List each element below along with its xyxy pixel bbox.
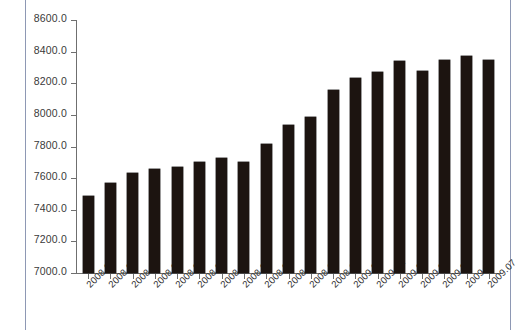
bar [238,162,249,273]
bar [483,60,494,273]
bar [261,144,272,273]
bar-chart: 7000.07200.07400.07600.07800.08000.08200… [0,0,523,330]
bar [305,117,316,273]
y-axis-tick-label: 7800.0 [34,139,67,151]
bar [283,125,294,273]
bar [149,169,160,273]
bar [350,78,361,273]
y-axis-tick-label: 8600.0 [34,12,67,24]
bar [105,183,116,273]
y-axis-tick-label: 8200.0 [34,75,67,87]
bar [127,173,138,273]
y-axis-tick-label: 7000.0 [34,265,67,277]
bar [216,158,227,273]
bar [394,61,405,273]
plot-area [77,20,500,273]
bar [439,60,450,273]
bar [328,90,339,273]
y-axis-tick-mark [71,273,77,274]
y-axis-tick-label: 8400.0 [34,44,67,56]
y-axis-tick-label: 7400.0 [34,202,67,214]
bar [461,56,472,273]
bar [194,162,205,273]
y-axis-tick-label: 7600.0 [34,170,67,182]
y-axis-tick-label: 7200.0 [34,233,67,245]
bar [417,71,428,273]
bar [172,167,183,273]
bar [83,196,94,273]
chart-page: 7000.07200.07400.07600.07800.08000.08200… [0,0,523,330]
bar [372,72,383,273]
y-axis-tick-label: 8000.0 [34,107,67,119]
